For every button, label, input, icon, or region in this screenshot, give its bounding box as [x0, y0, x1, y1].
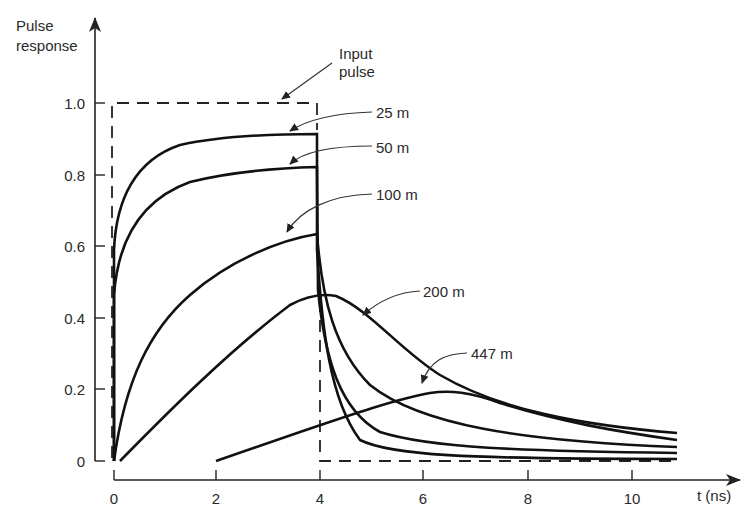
annotation-arrows — [282, 63, 467, 383]
label-25m: 25 m — [376, 105, 409, 120]
y-tick-label: 0.6 — [45, 238, 85, 255]
y-tick-label: 0.2 — [45, 381, 85, 398]
input-pulse-line — [112, 103, 677, 461]
x-tick-label: 0 — [99, 490, 129, 507]
y-tick-label: 0.4 — [45, 310, 85, 327]
x-axis-label: t (ns) — [697, 488, 731, 503]
x-tick-label: 2 — [201, 490, 231, 507]
curve-25m — [114, 134, 677, 461]
label-100m: 100 m — [376, 187, 418, 202]
x-tick-label: 8 — [513, 490, 543, 507]
x-tick-label: 10 — [617, 490, 647, 507]
pulse-response-chart — [0, 0, 756, 532]
x-tick-label: 4 — [305, 490, 335, 507]
curve-50m — [114, 167, 677, 461]
input-pulse-label-line2: pulse — [339, 64, 375, 79]
y-tick-label: 0 — [45, 453, 85, 470]
x-tick-label: 6 — [408, 490, 438, 507]
y-tick-label: 0.8 — [45, 167, 85, 184]
y-axis — [95, 18, 105, 461]
y-tick-label: 1.0 — [45, 95, 85, 112]
input-pulse-label-line1: Input — [339, 46, 372, 61]
y-axis-label-line1: Pulse — [16, 18, 54, 33]
y-axis-label-line2: response — [16, 38, 78, 53]
x-axis — [114, 470, 740, 480]
label-447m: 447 m — [471, 346, 513, 361]
label-50m: 50 m — [376, 140, 409, 155]
label-200m: 200 m — [423, 284, 465, 299]
